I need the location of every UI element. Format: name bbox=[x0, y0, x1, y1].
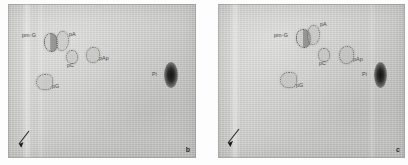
spot-pG bbox=[280, 72, 297, 88]
label-pm7G: pm⁷G bbox=[274, 33, 288, 38]
label-Pi: Pi bbox=[362, 72, 367, 77]
figure-root: pm⁷G pA pC pAp pG Pi b pm⁷G bbox=[0, 0, 408, 165]
spot-Pi-blot bbox=[164, 62, 178, 88]
label-pG: pG bbox=[296, 83, 303, 88]
spot-pG bbox=[36, 74, 53, 90]
spot-Pi-blot bbox=[374, 62, 387, 88]
spot-pAp bbox=[339, 46, 354, 64]
origin-arrow-icon bbox=[222, 128, 242, 150]
label-pC: pC bbox=[319, 61, 326, 66]
label-Pi: Pi bbox=[152, 72, 157, 77]
label-pG: pG bbox=[52, 84, 59, 89]
label-pA: pA bbox=[320, 22, 327, 27]
spot-pA bbox=[307, 25, 320, 45]
label-pC: pC bbox=[67, 63, 74, 68]
panel-c: pm⁷G pA pC pAp pG Pi c bbox=[218, 4, 405, 158]
label-pAp: pAp bbox=[99, 56, 109, 61]
panel-letter-b: b bbox=[186, 146, 190, 153]
label-pA: pA bbox=[69, 32, 76, 37]
origin-arrow-icon bbox=[14, 130, 32, 150]
panel-b: pm⁷G pA pC pAp pG Pi b bbox=[8, 4, 196, 158]
spot-pAp bbox=[86, 47, 100, 63]
spot-pA bbox=[56, 31, 69, 51]
panel-letter-c: c bbox=[396, 146, 400, 153]
label-pm7G: pm⁷G bbox=[22, 33, 36, 38]
label-pAp: pAp bbox=[353, 57, 363, 62]
